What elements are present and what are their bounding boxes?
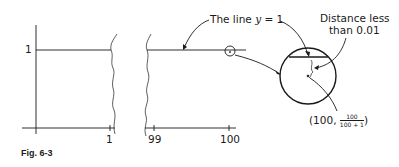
- distance-annotation-line1: Distance less: [320, 13, 390, 24]
- x-tick-label-1: 1: [106, 134, 113, 145]
- point-annotation-fraction: 100100 + 1: [340, 113, 364, 128]
- axis-break-right: [145, 34, 151, 136]
- line-label-arrow-left: [184, 20, 209, 48]
- line-annotation-suffix: = 1: [261, 13, 283, 25]
- line-label-arrow: [280, 21, 308, 55]
- point-annotation: (100, 100100 + 1): [309, 113, 368, 128]
- x-tick-label-100: 100: [220, 134, 240, 145]
- y-tick-label-1: 1: [25, 44, 32, 55]
- point-annotation-prefix: (100,: [309, 114, 340, 126]
- magnify-arrow: [235, 55, 280, 74]
- axis-break-left: [111, 34, 117, 134]
- magnify-circle-small: [225, 46, 235, 56]
- line-annotation-prefix: The line: [210, 13, 255, 25]
- point-100: [307, 75, 309, 77]
- x-tick-label-99: 99: [148, 134, 161, 145]
- figure-6-3: 1 1 99 100 The line y = 1 Distance less …: [0, 0, 399, 167]
- fraction-denominator: 100 + 1: [340, 121, 364, 128]
- line-annotation: The line y = 1: [210, 14, 283, 25]
- point-annotation-suffix: ): [364, 114, 368, 126]
- point-label-arrow: [310, 78, 337, 111]
- distance-label-arrow: [316, 38, 346, 68]
- figure-caption: Fig. 6-3: [21, 148, 53, 158]
- distance-bracket: [309, 60, 313, 78]
- distance-annotation-line2: than 0.01: [329, 25, 380, 36]
- fraction-numerator: 100: [340, 113, 364, 121]
